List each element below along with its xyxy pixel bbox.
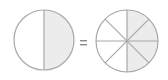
equals-sign	[80, 40, 87, 45]
half-circle-figure	[14, 10, 74, 70]
fraction-diagram	[0, 0, 168, 80]
eighths-circle-figure	[96, 10, 158, 72]
shaded-half	[44, 10, 74, 70]
